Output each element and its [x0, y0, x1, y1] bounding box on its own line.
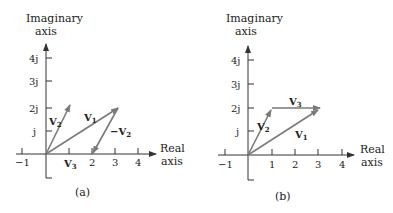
- y-tick-2j: 2j: [231, 103, 240, 114]
- phasor-diagram: Imaginary axis 4j 3j 2j j −1 2 3 4 Real …: [0, 0, 393, 213]
- y-tick-j: j: [32, 126, 36, 137]
- y-tick-3j: 3j: [231, 79, 240, 90]
- caption-a: (a): [75, 186, 90, 199]
- panel-b: Imaginary axis 4j 3j 2j j −1 1 2 3 4 Rea…: [218, 12, 385, 203]
- x-tick-3: 3: [112, 157, 118, 168]
- label-v1: V1: [83, 112, 97, 125]
- y-axis-label: Imaginary: [226, 12, 284, 25]
- label-neg-v2: −V2: [110, 126, 131, 139]
- label-v1: V1: [294, 129, 308, 142]
- label-v2: V2: [48, 116, 62, 129]
- caption-b: (b): [275, 190, 291, 203]
- x-tick-3: 3: [315, 159, 321, 170]
- x-tick-1: 1: [269, 159, 275, 170]
- panel-a: Imaginary axis 4j 3j 2j j −1 2 3 4 Real …: [15, 12, 185, 199]
- label-v3: V3: [288, 96, 302, 109]
- y-axis-label-2: axis: [35, 25, 57, 38]
- y-tick-4j: 4j: [231, 55, 240, 66]
- y-axis-label-2: axis: [235, 25, 257, 38]
- y-axis-label: Imaginary: [26, 12, 84, 25]
- x-tick-2: 2: [292, 159, 298, 170]
- x-axis-label: Real: [160, 142, 185, 155]
- x-tick-neg1: −1: [15, 157, 30, 168]
- x-axis-label: Real: [360, 143, 385, 156]
- y-tick-3j: 3j: [29, 76, 38, 87]
- label-v3: V3: [63, 158, 77, 171]
- x-tick-2: 2: [89, 157, 95, 168]
- x-tick-4: 4: [339, 159, 345, 170]
- x-tick-4: 4: [135, 157, 141, 168]
- label-v2: V2: [256, 121, 270, 134]
- x-axis-label-2: axis: [161, 155, 183, 168]
- y-tick-j: j: [235, 126, 239, 137]
- y-tick-4j: 4j: [29, 53, 38, 64]
- x-axis-label-2: axis: [361, 156, 383, 169]
- x-tick-neg1: −1: [218, 159, 233, 170]
- y-tick-2j: 2j: [29, 103, 38, 114]
